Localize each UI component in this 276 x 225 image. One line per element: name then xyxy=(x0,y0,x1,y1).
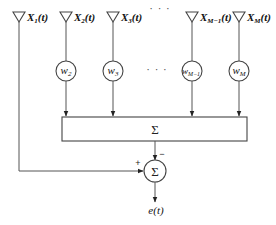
summer-box-label: Σ xyxy=(151,122,159,137)
input-label-x1: X1(t) xyxy=(26,11,48,25)
antenna-icon xyxy=(233,12,245,22)
antenna-icon xyxy=(186,12,198,22)
ellipsis-inputs: · · · xyxy=(149,2,171,14)
sidelobe-canceller-diagram: X1(t) X2(t) w2 X3(t) w3 · · · · · · XM−1… xyxy=(0,0,276,225)
channel-xm-1: XM−1(t) wM−1 xyxy=(182,11,232,116)
channel-x1: X1(t) xyxy=(13,11,143,171)
ellipsis-weights: · · · xyxy=(146,63,168,75)
input-label-x3: X3(t) xyxy=(120,11,142,25)
channel-x3: X3(t) w3 xyxy=(103,11,142,116)
difference-node-label: Σ xyxy=(151,164,159,179)
antenna-icon xyxy=(60,12,72,22)
antenna-icon xyxy=(13,12,25,22)
input-label-xm: XM(t) xyxy=(246,11,271,25)
antenna-icon xyxy=(107,12,119,22)
plus-sign: + xyxy=(135,158,140,168)
input-label-xm-1: XM−1(t) xyxy=(199,11,232,25)
channel-x2: X2(t) w2 xyxy=(56,11,95,116)
output-label: e(t) xyxy=(148,204,164,217)
minus-sign: − xyxy=(159,149,164,159)
channel-xm: XM(t) wM xyxy=(229,11,271,116)
input-label-x2: X2(t) xyxy=(73,11,95,25)
